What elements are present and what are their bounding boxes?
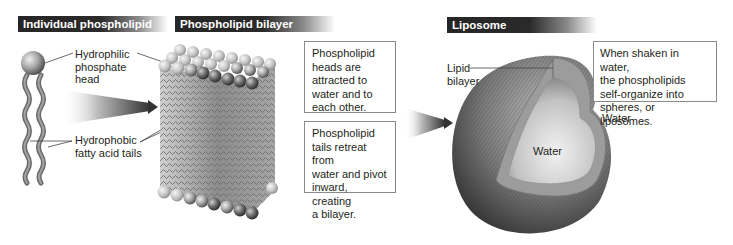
- label-line: Hydrophobic: [75, 134, 142, 147]
- note-line: water and to: [312, 88, 388, 102]
- note-liposome-formation: When shaken in water, the phospholipids …: [593, 41, 717, 102]
- note-line: When shaken in water,: [600, 47, 710, 74]
- note-line: each other.: [312, 101, 388, 115]
- note-line: a bilayer.: [312, 208, 388, 222]
- note-tails-retreat: Phospholipid tails retreat from water an…: [304, 121, 396, 193]
- note-heads-attracted: Phospholipid heads are attracted to wate…: [304, 41, 396, 113]
- label-lipid-bilayer: Lipid bilayer: [447, 62, 479, 87]
- phospholipid-bilayer-illustration: [158, 44, 279, 220]
- note-line: attracted to: [312, 74, 388, 88]
- note-line: Phospholipid: [312, 127, 388, 141]
- arrow-icon: [62, 90, 158, 125]
- note-line: the phospholipids: [600, 74, 710, 88]
- note-line: spheres, or liposomes.: [600, 101, 710, 128]
- label-hydrophilic-head: Hydrophilic phosphate head: [75, 48, 129, 86]
- note-line: tails retreat from: [312, 141, 388, 168]
- note-line: heads are: [312, 61, 388, 75]
- label-line: phosphate: [75, 61, 129, 74]
- label-line: head: [75, 73, 129, 86]
- label-line: fatty acid tails: [75, 147, 142, 160]
- header-individual-phospholipid: Individual phospholipid: [18, 16, 168, 32]
- arrow-icon: [405, 108, 453, 140]
- note-line: water and pivot: [312, 168, 388, 182]
- header-phospholipid-bilayer: Phospholipid bilayer: [175, 16, 335, 32]
- note-line: Phospholipid: [312, 47, 388, 61]
- label-water-inside: Water: [533, 145, 562, 158]
- phospholipid-molecule: [21, 51, 45, 183]
- header-liposome: Liposome: [447, 17, 597, 33]
- note-line: self-organize into: [600, 88, 710, 102]
- label-line: Hydrophilic: [75, 48, 129, 61]
- note-line: inward, creating: [312, 181, 388, 208]
- label-hydrophobic-tails: Hydrophobic fatty acid tails: [75, 134, 142, 159]
- label-line: Lipid: [447, 62, 479, 75]
- label-line: bilayer: [447, 75, 479, 88]
